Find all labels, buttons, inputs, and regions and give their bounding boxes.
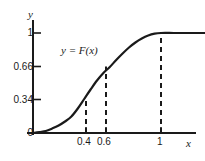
cdf-chart-figure: y x y = F(x) 1 0.66 0.34 0 0.4 0.6 1 [0, 0, 205, 161]
x-tick-label-1: 1 [157, 137, 163, 147]
origin-label: 0 [27, 128, 33, 138]
x-tick-label-04: 0.4 [77, 137, 91, 147]
y-tick-label-066: 0.66 [14, 62, 33, 72]
y-axis-label: y [28, 9, 33, 20]
curve-equation-label: y = F(x) [61, 45, 98, 56]
x-axis-label: x [186, 138, 191, 149]
y-tick-label-034: 0.34 [14, 95, 33, 105]
cdf-curve [33, 33, 205, 133]
x-tick-label-06: 0.6 [97, 137, 111, 147]
y-tick-label-1: 1 [27, 28, 33, 38]
